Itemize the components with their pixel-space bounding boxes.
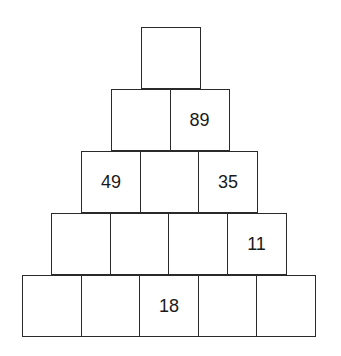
pyramid-row-4: 11 <box>51 213 285 276</box>
pyramid-cell <box>141 27 201 89</box>
pyramid-cell <box>256 275 316 337</box>
pyramid-cell <box>51 213 111 275</box>
pyramid-cell <box>22 275 82 337</box>
pyramid-cell: 35 <box>198 151 258 213</box>
pyramid-cell: 18 <box>139 275 199 337</box>
pyramid-cell <box>168 213 228 275</box>
pyramid-row-3: 49 35 <box>81 151 257 214</box>
pyramid-cell: 11 <box>227 213 287 275</box>
pyramid-cell <box>198 275 258 337</box>
pyramid-cell: 49 <box>81 151 141 213</box>
pyramid-row-5: 18 <box>22 275 315 338</box>
pyramid-row-2: 89 <box>111 89 228 152</box>
pyramid-cell <box>81 275 141 337</box>
number-pyramid: 89 49 35 11 18 <box>0 0 341 356</box>
pyramid-row-1 <box>141 27 200 90</box>
pyramid-cell: 89 <box>170 89 230 151</box>
pyramid-cell <box>110 213 170 275</box>
pyramid-cell <box>140 151 200 213</box>
pyramid-cell <box>111 89 171 151</box>
